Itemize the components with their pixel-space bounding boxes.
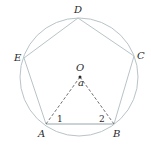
vertex-label-e: E: [13, 52, 22, 63]
radius-ob-dashed: [80, 77, 114, 124]
angle-label-1: 1: [57, 114, 63, 124]
vertex-label-a: A: [37, 128, 45, 139]
vertex-label-c: C: [137, 50, 145, 61]
vertex-label-d: D: [73, 4, 82, 15]
angle-label-a: a: [78, 77, 84, 88]
center-label-o: O: [76, 62, 84, 73]
vertex-label-b: B: [112, 128, 120, 139]
radius-oa-dashed: [46, 77, 80, 124]
angle-label-2: 2: [99, 114, 105, 124]
pentagon-diagram: A B C D E O a 1 2: [0, 0, 151, 146]
